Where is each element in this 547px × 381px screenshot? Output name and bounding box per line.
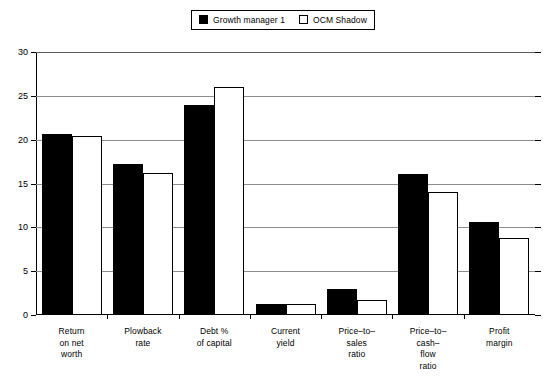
y-tick-label-15: 15 bbox=[18, 179, 28, 188]
y-right-tick-30 bbox=[535, 52, 541, 53]
x-axis-label-4: Price–to–salesratio bbox=[321, 326, 392, 361]
chart-legend: Growth manager 1 OCM Shadow bbox=[191, 10, 375, 30]
x-axis-label-3: Currentyield bbox=[250, 326, 321, 349]
x-axis-label-4-line-2: ratio bbox=[321, 349, 392, 361]
y-right-tick-0 bbox=[535, 315, 541, 316]
bar-1-1 bbox=[143, 173, 173, 315]
legend-label-series-0: Growth manager 1 bbox=[213, 15, 285, 25]
x-tick-mark-1 bbox=[107, 314, 108, 319]
hollow-square-icon bbox=[299, 15, 308, 24]
x-axis-label-0: Returnon networth bbox=[36, 326, 107, 361]
x-axis-label-6-line-1: margin bbox=[464, 338, 535, 350]
y-tick-mark-5 bbox=[31, 271, 36, 272]
x-axis-label-0-line-1: on net bbox=[36, 338, 107, 350]
legend-label-series-1: OCM Shadow bbox=[313, 15, 367, 25]
x-axis-label-2: Debt %of capital bbox=[179, 326, 250, 349]
y-tick-label-25: 25 bbox=[18, 91, 28, 100]
x-axis-label-4-line-1: sales bbox=[321, 338, 392, 350]
gridline-30 bbox=[36, 52, 535, 53]
x-axis-label-0-line-2: worth bbox=[36, 349, 107, 361]
y-tick-label-30: 30 bbox=[18, 48, 28, 57]
x-tick-mark-2 bbox=[179, 314, 180, 319]
bar-1-2 bbox=[214, 87, 244, 315]
legend-entry-growth-manager-1: Growth manager 1 bbox=[199, 15, 285, 25]
bar-1-5 bbox=[428, 192, 458, 315]
x-tick-mark-6 bbox=[464, 314, 465, 319]
x-axis-label-5-line-1: cash– bbox=[392, 338, 463, 350]
x-axis-label-3-line-1: yield bbox=[250, 338, 321, 350]
x-axis-label-2-line-0: Debt % bbox=[179, 326, 250, 338]
bar-0-1 bbox=[113, 164, 143, 315]
y-tick-mark-30 bbox=[31, 52, 36, 53]
x-axis-label-0-line-0: Return bbox=[36, 326, 107, 338]
bar-1-4 bbox=[357, 300, 387, 315]
x-axis-category-labels: Returnon networthPlowbackrateDebt %of ca… bbox=[36, 326, 535, 381]
bar-0-3 bbox=[256, 304, 286, 315]
bar-1-6 bbox=[499, 238, 529, 315]
x-axis-label-1: Plowbackrate bbox=[107, 326, 178, 349]
x-tick-mark-4 bbox=[321, 314, 322, 319]
bar-0-4 bbox=[327, 289, 357, 315]
bar-1-0 bbox=[72, 136, 102, 315]
x-axis-label-6-line-0: Profit bbox=[464, 326, 535, 338]
y-right-tick-5 bbox=[535, 271, 541, 272]
y-right-tick-10 bbox=[535, 227, 541, 228]
gridline-20 bbox=[36, 140, 535, 141]
x-axis-label-3-line-0: Current bbox=[250, 326, 321, 338]
x-axis-label-4-line-0: Price–to– bbox=[321, 326, 392, 338]
x-axis-label-5-line-3: ratio bbox=[392, 361, 463, 373]
y-right-tick-25 bbox=[535, 96, 541, 97]
gridline-25 bbox=[36, 96, 535, 97]
x-axis-label-5-line-0: Price–to– bbox=[392, 326, 463, 338]
y-tick-mark-15 bbox=[31, 184, 36, 185]
gridline-5 bbox=[36, 271, 535, 272]
x-axis-label-5: Price–to–cash–flowratio bbox=[392, 326, 463, 372]
y-right-tick-15 bbox=[535, 184, 541, 185]
bar-0-0 bbox=[42, 134, 72, 315]
y-tick-label-20: 20 bbox=[18, 135, 28, 144]
x-axis-label-2-line-1: of capital bbox=[179, 338, 250, 350]
x-axis-label-1-line-0: Plowback bbox=[107, 326, 178, 338]
y-tick-mark-20 bbox=[31, 140, 36, 141]
x-axis-label-5-line-2: flow bbox=[392, 349, 463, 361]
y-tick-label-0: 0 bbox=[23, 311, 28, 320]
x-axis-label-1-line-1: rate bbox=[107, 338, 178, 350]
x-tick-mark-3 bbox=[250, 314, 251, 319]
plot-area: 051015202530 bbox=[36, 52, 535, 315]
bar-0-5 bbox=[398, 174, 428, 315]
filled-square-icon bbox=[199, 15, 208, 24]
y-tick-label-5: 5 bbox=[23, 267, 28, 276]
y-tick-mark-10 bbox=[31, 227, 36, 228]
x-tick-mark-5 bbox=[392, 314, 393, 319]
y-tick-mark-0 bbox=[31, 315, 36, 316]
x-axis-label-6: Profitmargin bbox=[464, 326, 535, 349]
gridline-10 bbox=[36, 227, 535, 228]
bar-0-2 bbox=[184, 105, 214, 315]
gridline-15 bbox=[36, 184, 535, 185]
y-tick-label-10: 10 bbox=[18, 223, 28, 232]
bar-chart: Growth manager 1 OCM Shadow 051015202530… bbox=[0, 0, 547, 381]
bar-1-3 bbox=[286, 304, 316, 315]
y-right-tick-20 bbox=[535, 140, 541, 141]
legend-entry-ocm-shadow: OCM Shadow bbox=[299, 15, 367, 25]
bar-0-6 bbox=[469, 222, 499, 315]
y-tick-mark-25 bbox=[31, 96, 36, 97]
